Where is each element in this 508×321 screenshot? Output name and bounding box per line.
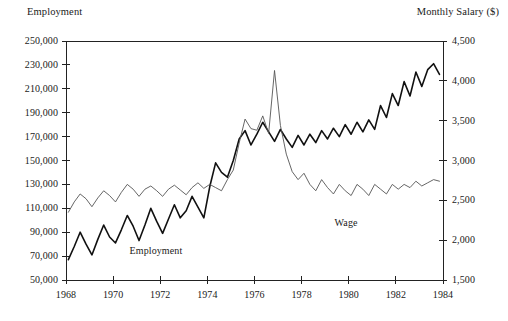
y2-axis-tick-label: 1,500 [452, 275, 475, 285]
series-line-wage [68, 70, 439, 212]
y-axis-tick-label: 170,000 [25, 132, 58, 142]
y-axis-tick-label: 230,000 [25, 60, 58, 70]
y-axis-tick-label: 190,000 [25, 108, 58, 118]
x-axis-tick-label: 1972 [150, 290, 170, 300]
series-line-employment [68, 64, 439, 260]
plot-area [0, 0, 508, 321]
x-axis-tick-label: 1974 [197, 290, 217, 300]
axis-lines [66, 41, 443, 280]
x-axis-tick-label: 1976 [244, 290, 264, 300]
chart-container: Employment Monthly Salary ($) 250,000230… [0, 0, 508, 321]
y-axis-tick-label: 110,000 [25, 203, 58, 213]
y2-axis-tick-label: 3,000 [452, 156, 475, 166]
y-axis-tick-label: 130,000 [25, 179, 58, 189]
y-axis-tick-label: 150,000 [25, 156, 58, 166]
tick-marks [62, 41, 447, 284]
x-axis-tick-label: 1970 [103, 290, 123, 300]
series-annotation-wage: Wage [335, 217, 358, 228]
series-annotation-employment: Employment [130, 245, 183, 256]
y-axis-tick-label: 250,000 [25, 36, 58, 46]
y2-axis-tick-label: 2,000 [452, 235, 475, 245]
y-axis-tick-label: 70,000 [30, 251, 58, 261]
x-axis-tick-label: 1982 [386, 290, 406, 300]
y2-axis-tick-label: 2,500 [452, 195, 475, 205]
y-axis-tick-label: 90,000 [30, 227, 58, 237]
x-axis-tick-label: 1984 [433, 290, 453, 300]
x-axis-tick-label: 1980 [339, 290, 359, 300]
y-axis-tick-label: 50,000 [30, 275, 58, 285]
y2-axis-tick-label: 4,000 [452, 76, 475, 86]
x-axis-tick-label: 1968 [56, 290, 76, 300]
data-series-group [68, 64, 439, 260]
x-axis-tick-label: 1978 [291, 290, 311, 300]
y2-axis-tick-label: 3,500 [452, 116, 475, 126]
y-axis-tick-label: 210,000 [25, 84, 58, 94]
y2-axis-tick-label: 4,500 [452, 36, 475, 46]
